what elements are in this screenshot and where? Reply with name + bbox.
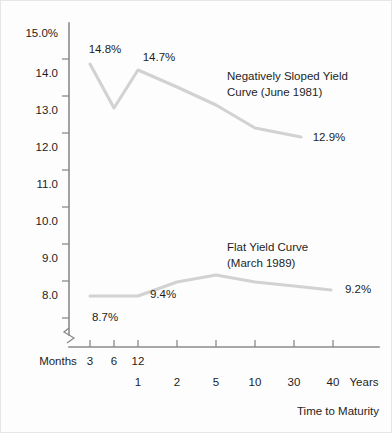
data-label-1981-peak: 14.7%	[143, 51, 176, 63]
y-tick-label: 13.0	[36, 104, 58, 116]
series-annotation-1989-line1: Flat Yield Curve	[227, 241, 308, 253]
x-tick-label-months: 3	[87, 355, 93, 367]
series-annotation-1981-line1: Negatively Sloped Yield	[227, 70, 348, 82]
series-annotation-1981-line2: Curve (June 1981)	[227, 86, 322, 98]
y-tick-label: 14.0	[36, 67, 58, 79]
x-tick-label-months: 12	[132, 355, 145, 367]
yield-curve-chart-figure: 15.0% 14.0 13.0 12.0 11.0 10.0 9.0 8.0 M…	[0, 0, 392, 433]
x-tick-label-years: 2	[174, 376, 180, 388]
x-axis-months-unit-label: Months	[39, 355, 77, 367]
series-annotation-1989-line2: (March 1989)	[227, 257, 296, 269]
x-axis-group: Months 3 6 12 1 2 5 10 30 40 Years Time …	[39, 340, 379, 417]
y-tick-label: 11.0	[36, 178, 58, 190]
y-tick-label: 15.0%	[25, 27, 58, 39]
data-label-1989-end: 9.2%	[345, 283, 371, 295]
x-tick-label-years: 10	[249, 376, 262, 388]
series-negatively-sloped-yield-curve: 14.8% 14.7% 12.9% Negatively Sloped Yiel…	[89, 43, 348, 143]
chart-canvas: 15.0% 14.0 13.0 12.0 11.0 10.0 9.0 8.0 M…	[1, 1, 392, 433]
x-tick-label-years: 5	[213, 376, 219, 388]
x-tick-label-years: 1	[135, 376, 141, 388]
series-line-1989	[90, 275, 331, 296]
x-axis-title: Time to Maturity	[297, 405, 379, 417]
x-tick-label-years: 40	[327, 376, 340, 388]
data-label-1981-start: 14.8%	[89, 43, 122, 55]
x-axis-years-unit-label: Years	[350, 376, 379, 388]
data-label-1989-mid: 9.4%	[150, 288, 176, 300]
data-label-1989-start: 8.7%	[92, 311, 118, 323]
y-tick-label: 9.0	[42, 252, 58, 264]
x-tick-label-years: 30	[288, 376, 301, 388]
y-tick-label: 12.0	[36, 141, 58, 153]
data-label-1981-end: 12.9%	[313, 131, 346, 143]
series-flat-yield-curve: 8.7% 9.4% 9.2% Flat Yield Curve (March 1…	[90, 241, 371, 323]
x-tick-label-months: 6	[111, 355, 117, 367]
y-axis-group: 15.0% 14.0 13.0 12.0 11.0 10.0 9.0 8.0	[25, 23, 74, 343]
y-tick-label: 10.0	[36, 215, 58, 227]
y-tick-label: 8.0	[42, 289, 58, 301]
